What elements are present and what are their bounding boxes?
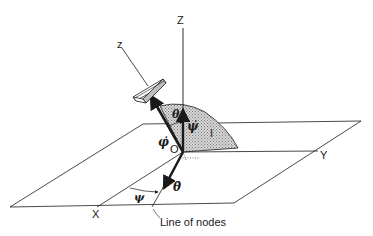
label-psi: ψ <box>134 191 145 204</box>
spinning-disc <box>133 79 166 103</box>
label-inertia: I <box>210 127 213 139</box>
label-phi-dot: φ̇ <box>158 135 169 149</box>
label-space-z: Z <box>177 14 184 26</box>
label-x: X <box>92 208 100 220</box>
label-body-z: z <box>117 38 123 50</box>
label-line-of-nodes: Line of nodes <box>160 216 227 228</box>
line-of-nodes-pointer <box>153 209 160 218</box>
label-y: Y <box>320 149 328 161</box>
label-origin: O <box>170 143 179 155</box>
label-theta: θ <box>172 108 180 121</box>
body-z-axis <box>122 48 148 86</box>
euler-angle-diagram: Z z X Y O I θ ψ̇ φ̇ θ̇ ψ Line of nodes <box>0 0 373 236</box>
y-axis <box>183 151 318 152</box>
label-psi-dot: ψ̇ <box>187 119 199 133</box>
label-theta-dot: θ̇ <box>173 180 181 194</box>
